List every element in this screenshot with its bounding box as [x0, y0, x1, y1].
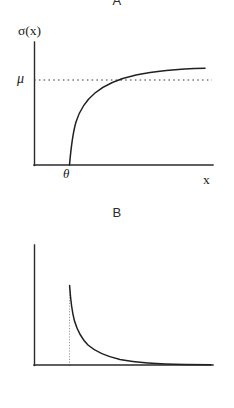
panel-a-y-axis-label: σ(x): [18, 24, 41, 38]
panel-a: A σ(x) μ θ x: [0, 0, 234, 204]
panel-b-plot: [0, 204, 234, 408]
panel-b: B σ'(x) θ x: [0, 204, 234, 408]
sigma-curve-a: [70, 68, 206, 165]
theta-label-a: θ: [63, 167, 69, 181]
sigma-prime-curve-b: [70, 286, 211, 365]
panel-a-x-axis-label: x: [203, 173, 210, 187]
figure-root: A σ(x) μ θ x B σ'(x): [0, 0, 234, 408]
mu-label: μ: [17, 72, 24, 86]
